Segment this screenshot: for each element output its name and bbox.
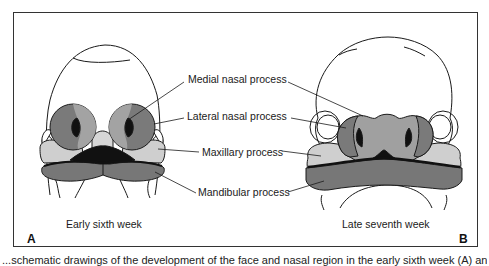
caption-panel-a: Early sixth week	[66, 218, 142, 230]
label-maxillary-process: Maxillary process	[202, 146, 283, 158]
face-b	[306, 37, 462, 210]
label-lateral-nasal-process: Lateral nasal process	[187, 110, 287, 122]
panel-letter-a: A	[27, 232, 36, 246]
label-mandibular-process: Mandibular process	[198, 186, 290, 198]
figure-caption-cropped: ...schematic drawings of the development…	[2, 254, 487, 266]
face-a	[40, 45, 165, 198]
label-medial-nasal-process: Medial nasal process	[188, 73, 287, 85]
caption-panel-b: Late seventh week	[342, 218, 430, 230]
panel-letter-b: B	[459, 232, 468, 246]
